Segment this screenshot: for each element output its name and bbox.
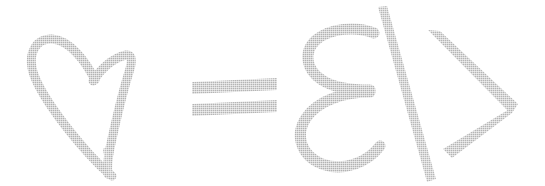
epsilon-letter	[300, 29, 380, 167]
equals-sign	[192, 78, 277, 116]
greater-than-sign	[428, 30, 518, 158]
sketch-canvas: ♡ = ε/>	[0, 0, 545, 186]
handwritten-equation	[0, 0, 545, 186]
heart-outline	[31, 39, 131, 176]
forward-slash	[378, 6, 436, 182]
